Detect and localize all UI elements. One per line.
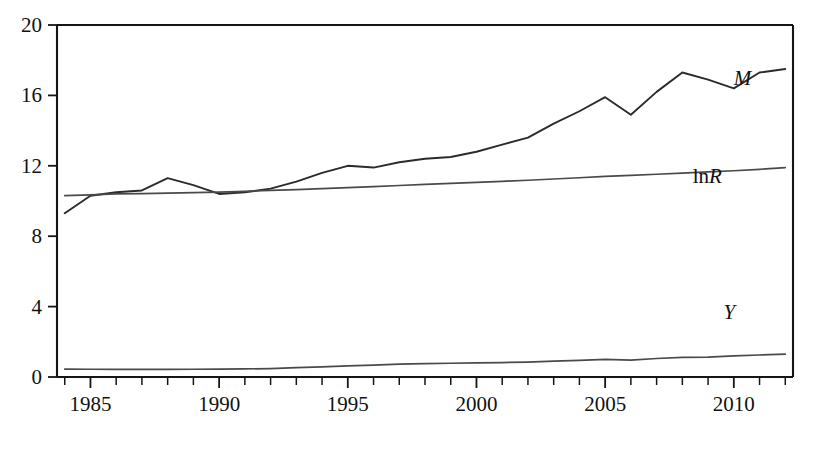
series-line-m bbox=[65, 69, 786, 213]
y-tick-label: 12 bbox=[21, 154, 42, 178]
series-label-m: M bbox=[733, 66, 753, 90]
chart-series-labels: MlnRY bbox=[693, 66, 753, 324]
x-tick-label: 1990 bbox=[198, 392, 240, 416]
y-tick-label: 8 bbox=[32, 224, 43, 248]
chart-figure: 048121620 198519901995200020052010 MlnRY bbox=[0, 0, 832, 455]
series-line-lnr bbox=[65, 168, 786, 196]
y-tick-label: 0 bbox=[32, 365, 43, 389]
x-tick-label: 2005 bbox=[584, 392, 626, 416]
series-line-y bbox=[65, 354, 786, 369]
x-tick-label: 1995 bbox=[327, 392, 369, 416]
x-tick-label: 2010 bbox=[713, 392, 755, 416]
y-tick-label: 16 bbox=[21, 83, 42, 107]
chart-axes bbox=[57, 25, 793, 377]
x-tick-label: 1985 bbox=[69, 392, 111, 416]
y-tick-label: 4 bbox=[32, 295, 43, 319]
line-chart: 048121620 198519901995200020052010 MlnRY bbox=[0, 0, 832, 455]
y-tick-label: 20 bbox=[21, 13, 42, 37]
series-label-lnr: lnR bbox=[693, 164, 722, 188]
series-label-y: Y bbox=[724, 300, 738, 324]
x-tick-label: 2000 bbox=[455, 392, 497, 416]
x-axis-tick-labels: 198519901995200020052010 bbox=[69, 392, 754, 416]
y-axis-tick-labels: 048121620 bbox=[21, 13, 43, 389]
chart-series-lines bbox=[65, 69, 786, 369]
